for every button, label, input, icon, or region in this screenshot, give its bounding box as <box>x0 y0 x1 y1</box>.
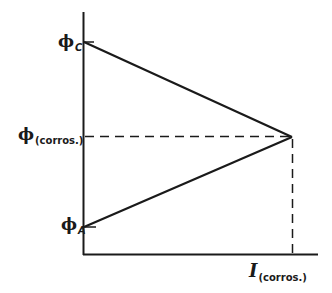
cathodic-line <box>84 42 292 137</box>
phi-a-symbol: ϕ <box>61 214 77 234</box>
anodic-line <box>84 137 292 227</box>
i-corros-subscript: (corros.) <box>258 272 306 283</box>
phi-a-subscript: A <box>78 225 86 236</box>
i-corros-label: I(corros.) <box>249 262 307 280</box>
phi-corros-subscript: (corros.) <box>35 135 83 146</box>
diagram-canvas <box>0 0 332 293</box>
phi-c-subscript: C <box>75 42 82 53</box>
phi-c-label: ϕC <box>58 33 82 50</box>
phi-corros-symbol: ϕ <box>18 124 34 144</box>
phi-c-symbol: ϕ <box>58 31 74 51</box>
phi-a-label: ϕA <box>61 216 86 233</box>
phi-corros-label: ϕ(corros.) <box>18 126 83 143</box>
i-corros-symbol: I <box>249 260 257 281</box>
evans-diagram: ϕC ϕ(corros.) ϕA I(corros.) <box>0 0 332 293</box>
